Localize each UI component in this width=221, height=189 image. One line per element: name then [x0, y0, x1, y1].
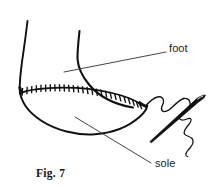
sole-outline — [20, 90, 148, 135]
seam-start-knot — [19, 87, 21, 95]
line-drawing-canvas — [0, 0, 221, 189]
thread-left-segment — [146, 97, 184, 112]
label-sole: sole — [155, 158, 176, 169]
shoe-upper-left-edge — [20, 21, 28, 89]
thread-tail — [186, 154, 188, 157]
leader-line-sole — [75, 117, 151, 163]
label-foot: foot — [169, 43, 188, 54]
leader-lines-group — [64, 52, 166, 163]
leader-line-foot — [64, 52, 166, 72]
needle-and-thread-group — [146, 95, 206, 157]
thread-lower-zigzag — [179, 116, 193, 154]
seam-line — [20, 88, 142, 105]
figure-caption: Fig. 7 — [36, 167, 65, 179]
shoe-outline-group — [20, 21, 148, 134]
figure-7-illustration: foot sole Fig. 7 — [0, 0, 221, 189]
